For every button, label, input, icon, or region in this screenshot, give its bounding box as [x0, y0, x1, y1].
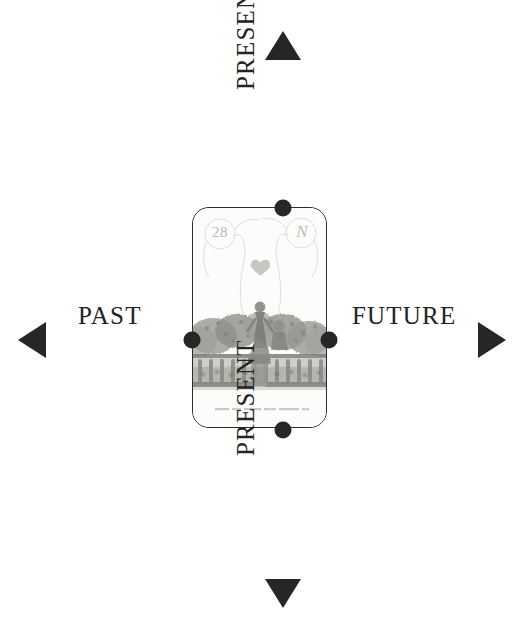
axis-label-present-bottom: PRESENT — [232, 339, 260, 456]
axis-label-future: FUTURE — [352, 302, 456, 330]
node-right — [321, 332, 338, 349]
node-top — [275, 200, 292, 217]
node-left — [184, 332, 201, 349]
axis-label-present-top: PRESENT — [232, 0, 260, 90]
axis-label-past: PAST — [78, 302, 142, 330]
time-axis-diagram: 28 N PAST FUTURE PRESENT PRESENT — [0, 0, 515, 637]
node-bottom — [275, 422, 292, 439]
